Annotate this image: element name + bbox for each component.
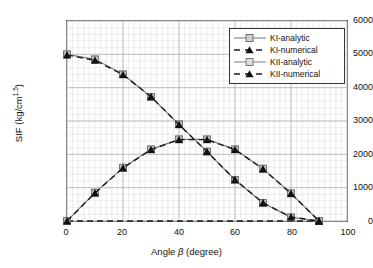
legend-label: KI-numerical (267, 44, 318, 56)
series-kii-numerical (63, 136, 323, 225)
x-tick-label: 40 (159, 228, 199, 237)
x-axis-title: Angle β (degree) (0, 246, 373, 257)
y-axis-title: SIF (kg/cm1.5) (12, 33, 24, 193)
series-line (67, 140, 319, 221)
x-tick-label: 0 (46, 228, 86, 237)
legend-label: KI-analytic (267, 32, 310, 44)
legend-key-line-square-gray (233, 32, 267, 44)
x-axis-title-post: (degree) (183, 246, 222, 257)
y-axis-title-close: ) (13, 84, 24, 87)
x-tick-label: 80 (272, 228, 312, 237)
legend-item-kii-numerical: KII-numerical (233, 68, 340, 80)
legend-key-line-square-gray (233, 56, 267, 68)
x-tick-label: 60 (215, 228, 255, 237)
series-kii-analytic (64, 136, 323, 224)
chart-figure: 6000 5000 4000 3000 2000 1000 0 0 20 40 … (0, 0, 373, 268)
x-axis-title-pre: Angle (151, 246, 178, 257)
legend-label: KII-numerical (267, 68, 320, 80)
legend-key-dashed-triangle-black (233, 68, 267, 80)
legend: KI-analytic KI-numerical KII-analytic (229, 28, 345, 84)
y-axis-title-base: SIF (kg/cm (13, 96, 24, 142)
y-axis-title-exponent: 1.5 (12, 87, 19, 96)
legend-label: KII-analytic (267, 56, 312, 68)
legend-item-kii-analytic: KII-analytic (233, 56, 340, 68)
series-line (67, 139, 319, 221)
legend-item-ki-numerical: KI-numerical (233, 44, 340, 56)
x-tick-label: 100 (328, 228, 368, 237)
legend-key-dashed-triangle-black (233, 44, 267, 56)
x-tick-label: 20 (102, 228, 142, 237)
legend-item-ki-analytic: KI-analytic (233, 32, 340, 44)
